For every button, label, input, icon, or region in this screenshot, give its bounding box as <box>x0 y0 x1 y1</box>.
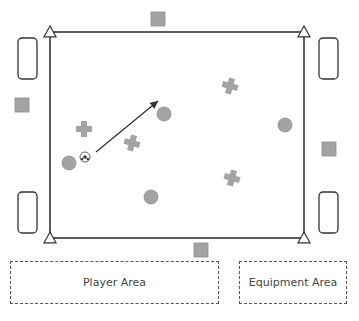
square-marker-icon <box>151 12 165 26</box>
square-markers <box>15 12 336 257</box>
equipment-area-label: Equipment Area <box>249 276 338 289</box>
cross-marker-icon <box>122 133 142 153</box>
training-drill-diagram: Player Area Equipment Area <box>0 0 359 321</box>
square-marker-icon <box>15 98 29 112</box>
square-marker-icon <box>194 243 208 257</box>
field-boundary <box>50 32 304 238</box>
goals <box>18 38 338 233</box>
square-marker-icon <box>322 142 336 156</box>
ball-patch <box>81 158 83 160</box>
player-circle-icon <box>144 190 158 204</box>
cross-marker-icon <box>220 76 240 96</box>
goal-left-top <box>18 38 37 79</box>
goal-right-bottom <box>319 192 338 233</box>
soccer-ball-icon <box>80 152 90 162</box>
goal-right-top <box>319 38 338 79</box>
player-circle-icon <box>62 156 76 170</box>
ball-patch <box>83 155 87 159</box>
cross-marker-icon <box>222 168 242 188</box>
cross-markers <box>76 76 242 188</box>
player-circle-icon <box>157 107 171 121</box>
player-area-label: Player Area <box>83 276 146 289</box>
player-circles <box>62 107 292 204</box>
player-circle-icon <box>278 118 292 132</box>
ball-patch <box>87 158 89 160</box>
cross-marker-icon <box>76 121 92 137</box>
goal-left-bottom <box>18 192 37 233</box>
player-area-zone: Player Area <box>10 261 219 304</box>
equipment-area-zone: Equipment Area <box>239 261 347 304</box>
field-boundary-line <box>50 32 304 238</box>
